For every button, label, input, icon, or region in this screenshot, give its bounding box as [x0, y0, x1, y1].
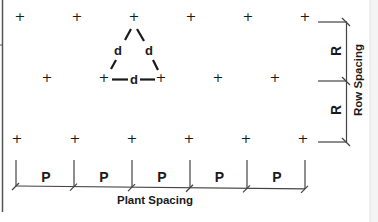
plant-marker: +: [241, 131, 252, 146]
row-spacing-title: Row Spacing: [352, 44, 364, 116]
plant-marker: +: [156, 70, 167, 85]
left-frame: [0, 0, 3, 212]
row-spacing-segment-label-1: R: [328, 46, 344, 56]
spacing-diagram: +++++++++++++++++ d d d R R Row Spacing …: [0, 0, 378, 222]
plant-spacing-segment-label: P: [41, 169, 50, 185]
plant-marker: +: [270, 70, 281, 85]
plant-marker: +: [184, 131, 195, 146]
plant-marker: +: [127, 131, 138, 146]
triangle-side-left-label: d: [114, 43, 122, 58]
plant-marker: +: [72, 9, 83, 24]
triangle-base-label: d: [130, 72, 138, 87]
row-spacing-dimension: [318, 18, 350, 146]
plant-marker: +: [70, 131, 81, 146]
plant-marker: +: [12, 131, 23, 146]
plant-spacing-segment-label: P: [272, 169, 281, 185]
plant-marker: +: [129, 9, 140, 24]
plant-marker: +: [42, 70, 53, 85]
plant-marker: +: [243, 9, 254, 24]
plant-marker: +: [15, 9, 26, 24]
plant-marker: +: [298, 131, 309, 146]
plant-grid: +++++++++++++++++: [12, 9, 311, 146]
plant-spacing-segment-label: P: [157, 169, 166, 185]
plant-spacing-segment-labels: PPPPP: [41, 169, 281, 185]
plant-marker: +: [186, 9, 197, 24]
triangle-side-right-label: d: [145, 43, 153, 58]
plant-marker: +: [99, 70, 110, 85]
right-margin-strip: [370, 0, 378, 222]
plant-spacing-segment-label: P: [215, 169, 224, 185]
row-spacing-segment-label-2: R: [328, 105, 344, 115]
plant-spacing-title: Plant Spacing: [117, 194, 193, 206]
plant-marker: +: [300, 9, 311, 24]
plant-marker: +: [213, 70, 224, 85]
plant-spacing-segment-label: P: [99, 169, 108, 185]
